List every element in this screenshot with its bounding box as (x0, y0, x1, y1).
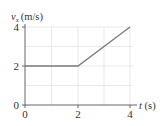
y-axis-label: vx(m/s) (11, 11, 43, 24)
x-axis-label: t (s) (139, 100, 156, 112)
y-tick-0: 0 (14, 99, 20, 111)
y-tick-2: 2 (14, 60, 20, 72)
x-tick-4: 4 (127, 108, 133, 120)
velocity-time-chart: 4 2 0 0 2 4 vx(m/s) t (s) (0, 0, 163, 126)
x-tick-0: 0 (22, 108, 28, 120)
x-tick-2: 2 (75, 108, 81, 120)
